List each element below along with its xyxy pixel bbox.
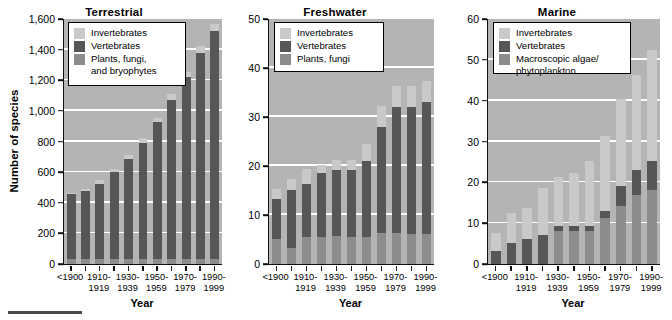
bar-segment-invertebrates	[317, 165, 326, 174]
y-tick-mark	[482, 59, 487, 61]
bar	[632, 75, 642, 264]
x-tick-mark	[542, 266, 544, 271]
y-tick-label: 60	[447, 13, 479, 25]
legend-label: Vertebrates	[516, 40, 565, 52]
x-tick-label: 1990- 1999	[414, 272, 438, 294]
bar-segment-invertebrates	[522, 208, 532, 238]
bar-segment-plants	[110, 259, 119, 264]
bar	[585, 161, 595, 264]
y-tick-mark	[482, 182, 487, 184]
bar-segment-plants	[632, 195, 642, 264]
y-tick-mark	[58, 263, 63, 265]
bar-segment-vertebrates	[407, 107, 416, 234]
bar-segment-invertebrates	[507, 213, 517, 243]
bar	[554, 177, 564, 264]
bar	[124, 155, 133, 264]
x-tick-mark	[99, 266, 101, 271]
bar	[272, 189, 281, 264]
x-tick-mark	[426, 266, 428, 271]
legend-label: Plants, fungi	[297, 53, 350, 65]
y-tick-label: 0	[447, 258, 479, 270]
bar	[569, 173, 579, 264]
bar	[332, 160, 341, 264]
bar	[522, 208, 532, 264]
y-tick-mark	[58, 141, 63, 143]
x-tick-mark	[636, 266, 638, 271]
bar-segment-invertebrates	[347, 160, 356, 170]
bar-segment-plants	[422, 234, 431, 264]
bar-segment-vertebrates	[522, 239, 532, 264]
chart-legend: InvertebratesVertebratesMacroscopic alga…	[493, 22, 631, 74]
x-tick-label: 1930- 1939	[116, 272, 140, 294]
bar-segment-plants	[647, 190, 657, 264]
x-tick-mark	[171, 266, 173, 271]
y-tick-mark	[263, 165, 268, 167]
legend-swatch-vertebrates	[499, 41, 510, 52]
legend-item-vertebrates: Vertebrates	[280, 40, 377, 52]
bar-segment-vertebrates	[182, 77, 191, 259]
legend-swatch-invertebrates	[499, 28, 510, 39]
bar-segment-plants	[616, 206, 626, 264]
y-tick-label: 30	[447, 136, 479, 148]
legend-swatch-vertebrates	[280, 41, 291, 52]
x-tick-label: 1910- 1919	[294, 272, 318, 294]
legend-label: Macroscopic algae/ phytoplankton	[516, 53, 599, 76]
legend-item-invertebrates: Invertebrates	[74, 27, 179, 39]
x-tick-mark	[276, 266, 278, 271]
x-tick-mark	[321, 266, 323, 271]
bar	[95, 180, 104, 264]
y-tick-label: 10	[447, 217, 479, 229]
y-tick-mark	[263, 116, 268, 118]
legend-label: Invertebrates	[297, 27, 353, 39]
bar-segment-vertebrates	[287, 190, 296, 248]
legend-swatch-invertebrates	[74, 28, 85, 39]
chart-legend: InvertebratesVertebratesPlants, fungi	[274, 22, 384, 72]
bar-segment-vertebrates	[124, 159, 133, 259]
legend-label: Invertebrates	[91, 27, 147, 39]
bar-segment-plants	[272, 239, 281, 264]
bar-segment-vertebrates	[616, 186, 626, 206]
bar-segment-vertebrates	[302, 184, 311, 237]
bar	[392, 86, 401, 264]
bar	[600, 136, 610, 264]
chart-title: Freshwater	[228, 6, 442, 18]
bar-segment-invertebrates	[600, 136, 610, 211]
bar-segment-vertebrates	[196, 53, 205, 260]
legend-item-plants: Plants, fungi	[280, 53, 377, 65]
bar-segment-plants	[124, 259, 133, 264]
x-tick-mark	[589, 266, 591, 271]
y-tick-mark	[263, 18, 268, 20]
bar	[507, 213, 517, 264]
x-tick-mark	[396, 266, 398, 271]
bar-segment-vertebrates	[139, 143, 148, 259]
y-tick-mark	[263, 67, 268, 69]
y-tick-mark	[58, 49, 63, 51]
x-tick-mark	[510, 266, 512, 271]
y-tick-label: 20	[447, 176, 479, 188]
bar-segment-invertebrates	[210, 24, 219, 31]
x-tick-mark	[128, 266, 130, 271]
bar-segment-plants	[167, 259, 176, 264]
x-tick-label: <1900	[262, 272, 288, 283]
x-tick-label: <1900	[482, 272, 508, 283]
legend-label: Plants, fungi, and bryophytes	[91, 53, 157, 76]
bar	[422, 81, 431, 264]
y-tick-mark	[482, 100, 487, 102]
bar-segment-invertebrates	[302, 169, 311, 184]
y-tick-mark	[58, 171, 63, 173]
legend-swatch-plants	[280, 54, 291, 65]
bar-segment-invertebrates	[585, 161, 595, 227]
y-tick-label: 20	[228, 160, 260, 172]
bar-segment-invertebrates	[616, 99, 626, 186]
bar-segment-vertebrates	[538, 235, 548, 264]
chart-panel-terrestrial: Terrestrial02004006008001,0001,2001,4001…	[0, 0, 228, 320]
bar	[407, 86, 416, 264]
x-axis-title: Year	[268, 297, 433, 309]
y-tick-label: 30	[228, 111, 260, 123]
x-axis-title: Year	[487, 297, 659, 309]
bar	[287, 179, 296, 264]
bar	[153, 118, 162, 264]
y-tick-label: 40	[447, 95, 479, 107]
bar-segment-invertebrates	[569, 173, 579, 227]
bar-segment-plants	[210, 259, 219, 264]
